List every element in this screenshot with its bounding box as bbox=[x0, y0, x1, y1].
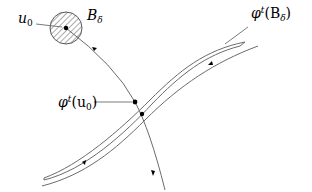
label-phi-t-b-delta: φt(Bδ) bbox=[251, 5, 291, 23]
image-of-ball-region bbox=[44, 42, 245, 180]
point-neighbor bbox=[140, 112, 144, 116]
arrow-head-icon bbox=[151, 170, 155, 176]
neighbor-trajectory bbox=[42, 46, 258, 186]
leader-phi-b-delta bbox=[225, 27, 248, 44]
point-u0 bbox=[64, 26, 68, 30]
label-b-delta: Bδ bbox=[86, 7, 103, 25]
point-phi-t-u0 bbox=[133, 100, 138, 105]
arrow-head-icon bbox=[208, 61, 213, 65]
label-phi-t-u0: φt(u0) bbox=[58, 94, 97, 112]
flow-diagram: u0 Bδ φt(Bδ) φt(u0) bbox=[0, 0, 312, 192]
arrow-head-icon bbox=[82, 160, 86, 165]
label-u0: u0 bbox=[18, 10, 33, 28]
